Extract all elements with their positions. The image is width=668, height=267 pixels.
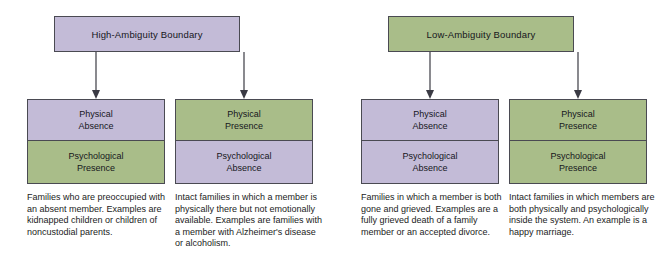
- cell-line-1: Psychological: [550, 150, 605, 162]
- boundary-header-label: High-Ambiguity Boundary: [91, 29, 202, 40]
- cell-physical-absence: Physical Absence: [362, 100, 498, 141]
- cell-line-1: Psychological: [402, 150, 457, 162]
- cell-line-1: Physical: [413, 108, 447, 120]
- boundary-header-label: Low-Ambiguity Boundary: [427, 29, 536, 40]
- cell-line-1: Physical: [561, 108, 595, 120]
- cell-stack-physical-absence-psychological-presence: Physical Absence Psychological Presence: [27, 99, 165, 184]
- cell-physical-presence: Physical Presence: [510, 100, 646, 141]
- caption-physical-absence-psychological-absence: Families in which a member is both gone …: [361, 192, 509, 238]
- cell-psychological-absence: Psychological Absence: [362, 141, 498, 183]
- cell-line-2: Presence: [559, 120, 597, 132]
- cell-line-2: Presence: [225, 120, 263, 132]
- cell-line-2: Absence: [78, 120, 113, 132]
- boundary-header-low-ambiguity: Low-Ambiguity Boundary: [388, 16, 574, 52]
- group-high-ambiguity: High-Ambiguity Boundary Physical Absence…: [0, 0, 334, 267]
- cell-line-2: Presence: [559, 162, 597, 174]
- connector-arrows-high-ambiguity: [0, 52, 334, 100]
- arrowhead-right-icon: [240, 90, 248, 99]
- cell-line-2: Presence: [77, 162, 115, 174]
- cell-line-1: Physical: [79, 108, 113, 120]
- boundary-header-high-ambiguity: High-Ambiguity Boundary: [54, 16, 240, 52]
- caption-physical-presence-psychological-absence: Intact families in which a member is phy…: [175, 192, 323, 250]
- cell-psychological-absence: Psychological Absence: [176, 141, 312, 183]
- boundary-ambiguity-diagram: High-Ambiguity Boundary Physical Absence…: [0, 0, 668, 267]
- arrowhead-left-icon: [92, 90, 100, 99]
- arrowhead-right-icon: [574, 90, 582, 99]
- cell-stack-physical-absence-psychological-absence: Physical Absence Psychological Absence: [361, 99, 499, 184]
- cell-physical-absence: Physical Absence: [28, 100, 164, 141]
- cell-line-1: Psychological: [216, 150, 271, 162]
- cell-psychological-presence: Psychological Presence: [510, 141, 646, 183]
- cell-line-2: Absence: [226, 162, 261, 174]
- cell-stack-physical-presence-psychological-presence: Physical Presence Psychological Presence: [509, 99, 647, 184]
- cell-line-1: Physical: [227, 108, 261, 120]
- cell-line-2: Absence: [412, 162, 447, 174]
- cell-line-2: Absence: [412, 120, 447, 132]
- group-low-ambiguity: Low-Ambiguity Boundary Physical Absence …: [334, 0, 668, 267]
- cell-physical-presence: Physical Presence: [176, 100, 312, 141]
- caption-physical-presence-psychological-presence: Intact families in which members are bot…: [509, 192, 657, 238]
- cell-line-1: Psychological: [68, 150, 123, 162]
- caption-physical-absence-psychological-presence: Families who are preoccupied with an abs…: [27, 192, 175, 238]
- arrowhead-left-icon: [426, 90, 434, 99]
- cell-psychological-presence: Psychological Presence: [28, 141, 164, 183]
- cell-stack-physical-presence-psychological-absence: Physical Presence Psychological Absence: [175, 99, 313, 184]
- connector-arrows-low-ambiguity: [334, 52, 668, 100]
